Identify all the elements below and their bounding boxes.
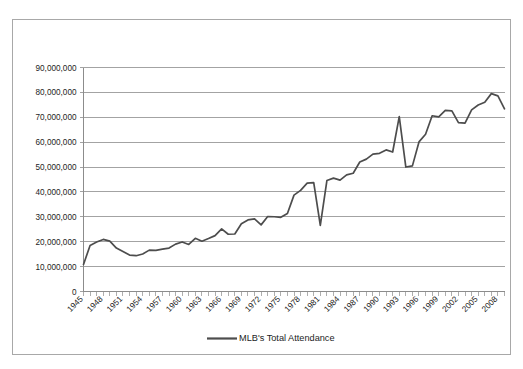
x-tick-label: 1999 [421, 294, 441, 314]
x-tick-label: 1975 [263, 294, 283, 314]
chart-figure-frame: 010,000,00020,000,00030,000,00040,000,00… [12, 19, 511, 355]
chart-legend: MLB's Total Attendance [207, 333, 335, 343]
x-tick-label: 1948 [85, 294, 105, 314]
x-tick-label: 1981 [302, 294, 322, 314]
x-tick-label: 2002 [441, 294, 461, 314]
y-tick-label: 70,000,000 [36, 113, 77, 122]
x-tick-label: 2005 [460, 294, 480, 314]
y-axis-tick-marks [80, 68, 84, 292]
y-tick-label: 10,000,000 [36, 263, 77, 272]
x-tick-label: 1963 [184, 294, 204, 314]
x-tick-label: 1957 [145, 294, 165, 314]
y-tick-label: 20,000,000 [36, 238, 77, 247]
x-tick-label: 1987 [342, 294, 362, 314]
attendance-line-chart: 010,000,00020,000,00030,000,00040,000,00… [13, 20, 512, 356]
x-tick-label: 1996 [401, 294, 421, 314]
x-tick-label: 1954 [125, 294, 145, 314]
x-tick-label: 2008 [480, 294, 500, 314]
x-tick-label: 1972 [243, 294, 263, 314]
y-tick-label: 40,000,000 [36, 188, 77, 197]
series-line-mlb-total-attendance [84, 94, 505, 265]
legend-label: MLB's Total Attendance [239, 333, 335, 343]
y-tick-label: 0 [72, 288, 77, 297]
y-tick-label: 50,000,000 [36, 163, 77, 172]
x-tick-label: 1945 [66, 294, 86, 314]
x-tick-label: 1993 [381, 294, 401, 314]
x-tick-label: 1984 [322, 294, 342, 314]
y-tick-label: 80,000,000 [36, 88, 77, 97]
x-tick-label: 1990 [362, 294, 382, 314]
y-tick-label: 90,000,000 [36, 64, 77, 73]
data-series-group [84, 94, 505, 265]
gridlines-group [84, 68, 505, 267]
x-axis-tick-labels: 1945194819511954195719601963196619691972… [66, 294, 500, 314]
y-tick-label: 30,000,000 [36, 213, 77, 222]
x-tick-label: 1951 [105, 294, 125, 314]
x-tick-label: 1969 [224, 294, 244, 314]
y-axis-tick-labels: 010,000,00020,000,00030,000,00040,000,00… [36, 64, 77, 297]
x-tick-label: 1978 [283, 294, 303, 314]
x-tick-label: 1960 [164, 294, 184, 314]
x-tick-label: 1966 [204, 294, 224, 314]
y-tick-label: 60,000,000 [36, 138, 77, 147]
